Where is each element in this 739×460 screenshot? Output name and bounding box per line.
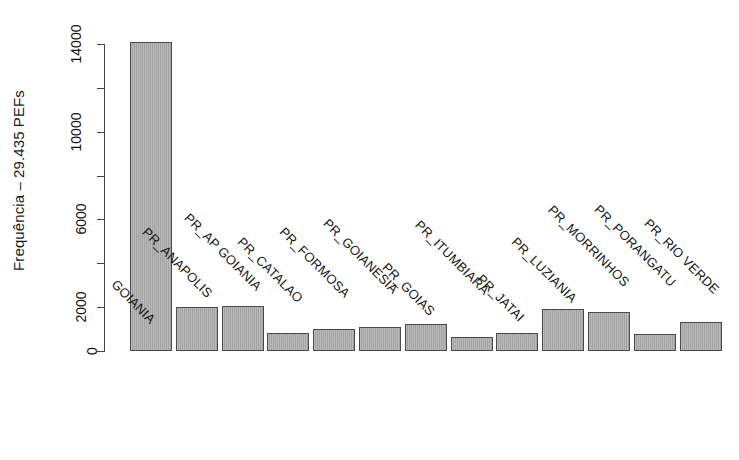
bar: [176, 307, 218, 351]
bar: [222, 306, 264, 351]
bar: [496, 333, 538, 351]
bar: [634, 334, 676, 351]
bar: [680, 322, 722, 351]
bar: [313, 329, 355, 351]
x-axis-tick-labels: GOIANIAPR_ANAPOLISPR_AP GOIANIAPR_CATALA…: [0, 352, 739, 460]
bar-chart-figure: Frequência – 29.435 PEFs 020006000100001…: [0, 0, 739, 460]
bars-layer: [0, 0, 739, 360]
bar: [451, 337, 493, 351]
bar: [588, 312, 630, 351]
bar: [359, 327, 401, 351]
bar: [267, 333, 309, 351]
bar: [542, 309, 584, 351]
bar: [405, 324, 447, 351]
